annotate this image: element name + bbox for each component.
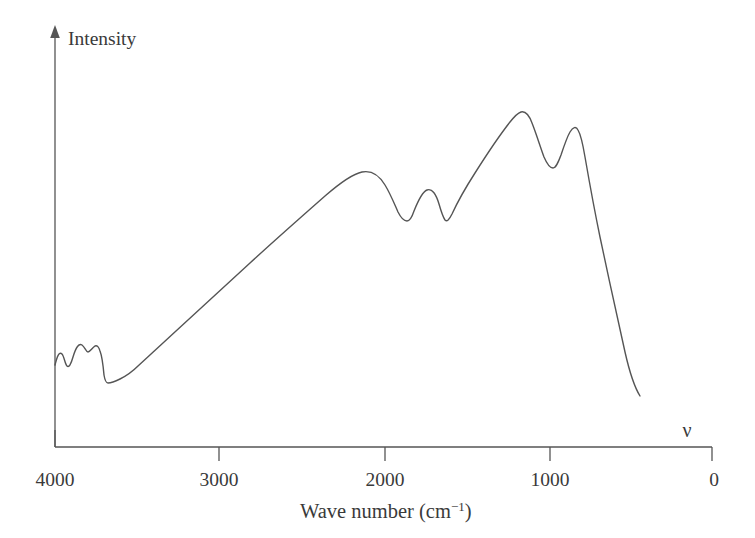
x-axis-title-exponent: −1 (451, 499, 465, 514)
spectrum-curve-group (55, 112, 640, 396)
y-axis-label: Intensity (68, 28, 136, 49)
x-axis-group: 4000 3000 2000 1000 0 ν Wave number (cm−… (36, 419, 719, 523)
y-axis-group: Intensity (50, 25, 136, 447)
x-axis-tick-label-1000: 1000 (531, 469, 570, 490)
x-axis-tick-label-0: 0 (709, 469, 719, 490)
spectrum-plot-svg: Intensity 4000 3000 2000 1000 0 ν Wave n… (0, 0, 755, 538)
y-axis-arrow-icon (50, 25, 60, 38)
x-axis-tick-label-3000: 3000 (200, 469, 239, 490)
spectrum-figure: Intensity 4000 3000 2000 1000 0 ν Wave n… (0, 0, 755, 538)
x-axis-tick-label-4000: 4000 (36, 469, 75, 490)
x-axis-title-main: Wave number (cm (300, 500, 451, 523)
x-axis-tick-label-2000: 2000 (366, 469, 405, 490)
x-axis-title-close: ) (465, 500, 472, 523)
nu-symbol: ν (682, 419, 691, 441)
x-axis-title: Wave number (cm−1) (300, 499, 472, 523)
spectrum-curve (55, 112, 640, 396)
